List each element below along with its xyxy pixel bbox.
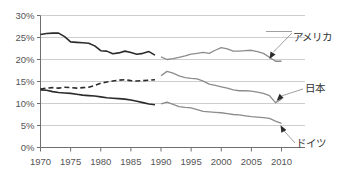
y-tick-label-0: 0% <box>21 142 35 153</box>
arrow-head-america <box>269 52 275 59</box>
x-tick-label-2010: 2010 <box>271 156 292 167</box>
figure-line-chart: 0%5%10%15%20%25%30% 19701975198019851990… <box>0 0 341 182</box>
annotation-label-america: アメリカ <box>293 31 332 43</box>
y-tick-label-30: 30% <box>15 10 35 21</box>
series-line-america_early <box>41 33 155 55</box>
y-tick-labels-group: 0%5%10%15%20%25%30% <box>15 10 35 153</box>
series-line-germany_early <box>41 90 155 105</box>
series-line-germany_late <box>161 102 282 123</box>
x-tick-label-1990: 1990 <box>150 156 171 167</box>
annotation-connector-japan <box>282 89 303 96</box>
data-series-group <box>41 33 282 123</box>
y-tick-label-15: 15% <box>15 76 35 87</box>
annotation-connector-america <box>273 33 292 52</box>
y-tick-label-20: 20% <box>15 54 35 65</box>
chart-canvas: 0%5%10%15%20%25%30% 19701975198019851990… <box>0 0 341 182</box>
annotation-label-japan: 日本 <box>305 82 326 94</box>
arrow-head-germany <box>281 125 287 133</box>
y-tick-label-5: 5% <box>21 120 35 131</box>
series-line-japan_late <box>161 71 282 102</box>
x-tick-label-1975: 1975 <box>60 156 81 167</box>
x-axis-group <box>41 148 306 152</box>
x-tick-label-1985: 1985 <box>120 156 141 167</box>
gridlines-group <box>41 16 306 148</box>
x-tick-label-2000: 2000 <box>211 156 232 167</box>
series-line-japan_early <box>41 80 155 89</box>
y-tick-label-10: 10% <box>15 98 35 109</box>
y-tick-label-25: 25% <box>15 32 35 43</box>
x-tick-label-1970: 1970 <box>30 156 51 167</box>
annotations-group: アメリカ日本ドイツ <box>266 31 332 149</box>
annotation-connector-germany <box>284 130 296 143</box>
x-tick-label-1980: 1980 <box>90 156 111 167</box>
y-axis-group <box>37 16 41 148</box>
x-tick-label-1995: 1995 <box>181 156 202 167</box>
x-tick-labels-group: 197019751980198519901995200020052010 <box>30 156 292 167</box>
annotation-label-germany: ドイツ <box>296 137 326 149</box>
x-tick-label-2005: 2005 <box>241 156 262 167</box>
